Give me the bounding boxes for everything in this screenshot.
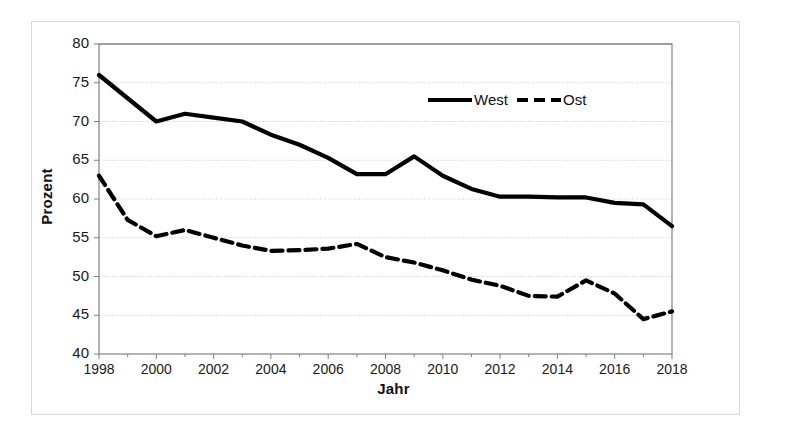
x-tick-label: 2004 [241,361,301,377]
y-tick-label: 75 [55,73,89,90]
y-tick-label: 45 [55,305,89,322]
x-tick-label: 2016 [585,361,645,377]
y-tick-label: 55 [55,228,89,245]
y-axis-tick-marks [94,44,99,354]
legend-label-west: West [474,91,508,108]
y-tick-label: 65 [55,150,89,167]
y-axis-title: Prozent [38,137,55,257]
x-tick-label: 1998 [69,361,129,377]
chart-figure: 404550556065707580 199820002002200420062… [0,0,787,441]
x-tick-label: 2000 [126,361,186,377]
x-tick-label: 2002 [184,361,244,377]
y-tick-label: 50 [55,267,89,284]
x-tick-label: 2014 [527,361,587,377]
x-tick-label: 2008 [356,361,416,377]
x-tick-label: 2012 [470,361,530,377]
y-tick-label: 60 [55,189,89,206]
x-tick-label: 2018 [642,361,702,377]
legend-label-ost: Ost [563,91,586,108]
x-tick-label: 2010 [413,361,473,377]
x-axis-title: Jahr [0,380,787,397]
x-tick-label: 2006 [298,361,358,377]
x-axis-tick-marks [99,354,672,359]
y-tick-label: 40 [55,344,89,361]
y-tick-label: 70 [55,112,89,129]
y-tick-label: 80 [55,34,89,51]
